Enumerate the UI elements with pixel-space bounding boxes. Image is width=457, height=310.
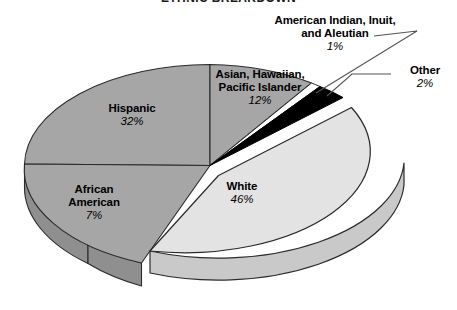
slice-label-american-indian: American Indian, Inuit, and Aleutian 1% — [247, 14, 423, 53]
pie-chart-figure: ETHNIC BREAKDOWN American Indian, Inu — [0, 0, 457, 310]
slice-label-other: Other 2% — [396, 64, 454, 90]
slice-value-asian: 12% — [199, 94, 321, 107]
slice-label-american-indian-line2: and Aleutian — [247, 27, 423, 40]
slice-value-american-indian: 1% — [247, 40, 423, 53]
slice-value-hispanic: 32% — [86, 115, 178, 128]
slice-label-african-american: African American 7% — [48, 183, 140, 222]
slice-label-hispanic: Hispanic 32% — [86, 102, 178, 128]
slice-value-african-american: 7% — [48, 209, 140, 222]
slice-value-white: 46% — [204, 193, 280, 206]
slice-label-asian-hawaiian-pacific-islander: Asian, Hawaiian, Pacific Islander 12% — [199, 68, 321, 107]
slice-label-hispanic-line1: Hispanic — [86, 102, 178, 115]
slice-value-other: 2% — [396, 77, 454, 90]
slice-label-white-line1: White — [204, 180, 280, 193]
leader-line-other — [327, 74, 391, 96]
slice-label-asian-line1: Asian, Hawaiian, — [199, 68, 321, 81]
slice-label-american-indian-line1: American Indian, Inuit, — [247, 14, 423, 27]
slice-label-white: White 46% — [204, 180, 280, 206]
slice-label-african-line2: American — [48, 196, 140, 209]
slice-label-other-line1: Other — [396, 64, 454, 77]
slice-label-asian-line2: Pacific Islander — [199, 81, 321, 94]
slice-label-african-line1: African — [48, 183, 140, 196]
